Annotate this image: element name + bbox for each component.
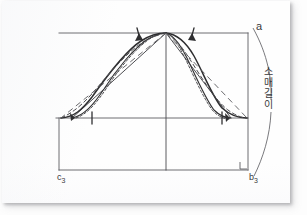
chord-left xyxy=(72,33,166,118)
sleeve-length-char-2: 길 xyxy=(262,88,274,99)
point-label-b3: b3 xyxy=(249,172,258,184)
sleeve-cap-solid-curve xyxy=(61,33,247,118)
arrowhead-top-right xyxy=(188,33,196,41)
point-label-c3-subscript: 3 xyxy=(62,177,66,184)
right-angle-mark xyxy=(240,162,247,169)
sleeve-length-char-1: 매 xyxy=(262,77,274,88)
pattern-drawing xyxy=(0,0,307,215)
arrowhead-biceps-right xyxy=(225,113,230,122)
scanned-page: a c3 b3 소 매 길 이 xyxy=(0,0,307,215)
sleeve-length-char-3: 이 xyxy=(262,99,274,110)
sleeve-length-char-0: 소 xyxy=(262,66,274,77)
point-label-a: a xyxy=(256,20,262,32)
measurement-label-sleeve-length: 소 매 길 이 xyxy=(262,66,274,110)
sleeve-cap-fine-dashed-curves xyxy=(76,33,229,119)
cap-chord-lines xyxy=(72,33,231,118)
measure-arc-lower xyxy=(254,112,271,176)
chord-right xyxy=(166,33,231,118)
point-label-b3-subscript: 3 xyxy=(254,177,258,184)
notch-marks xyxy=(92,28,222,124)
arrowhead-top-left xyxy=(135,33,143,41)
point-label-c3: c3 xyxy=(57,172,65,184)
